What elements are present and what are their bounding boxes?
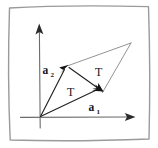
edge-a2-to-apex xyxy=(69,43,132,66)
vector-label-a1-base: a xyxy=(89,101,95,113)
vector-a2-arrowhead-icon xyxy=(59,65,69,73)
region-label-t-lower: T xyxy=(67,85,75,99)
sketch-frame-border xyxy=(9,6,150,141)
figure-canvas: a 2 a 1 T T xyxy=(0,0,158,148)
edge-apex-to-a1 xyxy=(103,43,132,93)
vector-label-a2-subscript: 2 xyxy=(51,71,55,79)
y-axis-line xyxy=(39,31,40,128)
vector-label-a2-base: a xyxy=(43,64,49,76)
vector-diagram-svg: a 2 a 1 T T xyxy=(0,0,158,148)
vector-label-a1-subscript: 1 xyxy=(97,108,101,116)
region-label-t-upper: T xyxy=(95,65,103,79)
